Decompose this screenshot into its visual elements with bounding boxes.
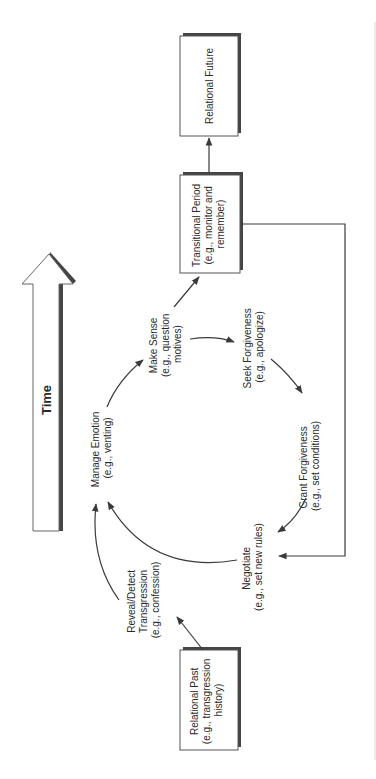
relational-past-line-1: Relational Past bbox=[189, 668, 200, 735]
time-arrow: Time bbox=[22, 252, 76, 531]
time-label: Time bbox=[39, 385, 54, 415]
arrow-negotiate-to-manage bbox=[108, 502, 237, 563]
node-negotiate: Negotiate (e.g., set new rules) bbox=[241, 523, 264, 611]
relational-future-line-1: Relational Future bbox=[204, 47, 215, 124]
arrow-past-to-reveal bbox=[177, 617, 203, 650]
transitional-line-1: Transitional Period bbox=[191, 184, 202, 267]
arrow-reveal-to-manage bbox=[95, 504, 119, 600]
relational-past-line-2: (e.g., transgression bbox=[201, 659, 212, 745]
transitional-period-box: Transitional Period (e.g., monitor and r… bbox=[180, 172, 243, 273]
node-manage-emotion: Manage Emotion (e.g., venting) bbox=[90, 409, 113, 487]
arrow-manage-to-makesense bbox=[107, 360, 143, 407]
svg-text:Relational Future: Relational Future bbox=[204, 47, 215, 124]
relational-past-box: Relational Past (e.g., transgression his… bbox=[180, 647, 241, 750]
node-reveal-detect: Reveal/Detect Transgression (e.g., confe… bbox=[126, 562, 161, 639]
node-make-sense: Make Sense (e.g., question motives) bbox=[148, 311, 183, 377]
arrow-seek-to-grant bbox=[271, 359, 302, 393]
node-grant-forgiveness: Grant Forgiveness (e.g., set conditions) bbox=[298, 421, 321, 511]
transitional-line-3: remember) bbox=[215, 200, 226, 249]
arrow-makesense-to-seek bbox=[190, 338, 234, 342]
relational-past-line-3: history) bbox=[213, 684, 224, 717]
node-seek-forgiveness: Seek Forgiveness (e.g., apologize) bbox=[242, 306, 265, 389]
transitional-line-2: (e.g., monitor and bbox=[203, 186, 214, 264]
arrow-transitional-to-negotiate bbox=[241, 224, 345, 556]
relational-future-box: Relational Future bbox=[180, 33, 241, 136]
forgiveness-process-diagram: Time Relational Future Transitional Peri… bbox=[0, 0, 376, 779]
arrow-makesense-to-transitional bbox=[174, 277, 199, 307]
